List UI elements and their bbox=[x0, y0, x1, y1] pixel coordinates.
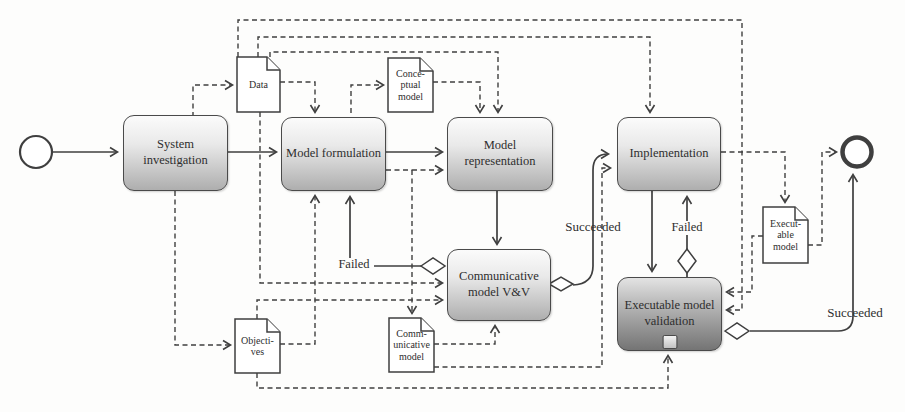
edge-objectives-doc-to-communicative-vv bbox=[257, 300, 442, 319]
task-label: Implementation bbox=[629, 146, 708, 162]
task-system-investigation: System investigation bbox=[123, 115, 228, 191]
connector-layer bbox=[0, 0, 905, 412]
failed-left-label: Failed bbox=[334, 258, 374, 272]
edge-data-doc-to-implementation bbox=[258, 37, 650, 112]
failed-right-label: Failed bbox=[667, 221, 707, 235]
task-model-representation: Model representation bbox=[447, 117, 553, 191]
edge-executable-doc-to-executable-validation bbox=[727, 236, 763, 292]
edge-system-investigation-to-data-doc bbox=[193, 85, 232, 117]
task-label: Model representation bbox=[452, 138, 548, 169]
diagram-canvas: System investigation Model formulation M… bbox=[0, 0, 905, 412]
data-document-label: Data bbox=[237, 57, 280, 112]
executable-model-document-label: Execut-ablemodel bbox=[763, 207, 808, 263]
task-label: Executable model validation bbox=[622, 298, 717, 329]
edge-objectives-doc-to-model-formulation bbox=[280, 196, 315, 344]
gateway-executable-validation-top bbox=[678, 249, 696, 273]
succeeded-left-label: Succeeded bbox=[551, 220, 635, 234]
edge-objectives-doc-to-executable-validation bbox=[257, 356, 668, 388]
task-label: Communicative model V&V bbox=[452, 269, 546, 300]
task-implementation: Implementation bbox=[617, 117, 721, 191]
task-executable-model-validation: Executable model validation bbox=[617, 277, 722, 351]
edge-system-investigation-to-objectives-doc bbox=[175, 191, 230, 345]
objectives-document-label: Objecti-ves bbox=[235, 319, 280, 373]
succeeded-right-label: Succeeded bbox=[820, 306, 890, 320]
subprocess-marker-icon bbox=[662, 335, 677, 349]
end-event-icon bbox=[843, 138, 872, 167]
edge-implementation-to-executable-doc bbox=[721, 152, 785, 202]
edge-conceptual-doc-to-model-representation bbox=[433, 82, 480, 112]
edge-data-doc-to-model-formulation bbox=[280, 82, 315, 112]
gateway-executable-validation-right bbox=[725, 323, 749, 339]
gateway-communicative-vv-left bbox=[421, 258, 445, 274]
edge-data-doc-to-model-representation bbox=[270, 52, 498, 112]
task-communicative-model-vv: Communicative model V&V bbox=[447, 249, 551, 321]
conceptual-model-document-label: Conce-ptualmodel bbox=[388, 58, 433, 112]
gateway-communicative-vv-right bbox=[549, 277, 573, 291]
task-model-formulation: Model formulation bbox=[281, 117, 386, 191]
edge-communicative-doc-to-communicative-vv bbox=[434, 326, 495, 344]
start-event-icon bbox=[20, 136, 52, 168]
task-label: System investigation bbox=[128, 137, 223, 168]
edge-model-formulation-to-conceptual-doc bbox=[351, 85, 383, 113]
task-label: Model formulation bbox=[286, 146, 381, 162]
communicative-model-document-label: Comm-unicativemodel bbox=[389, 318, 434, 372]
edge-executable-doc-to-end bbox=[808, 152, 836, 245]
